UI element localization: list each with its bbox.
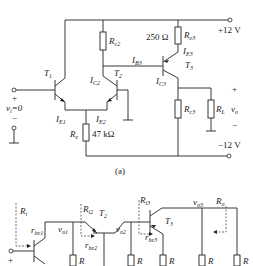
ib3-label: IB3: [131, 55, 142, 66]
ic3-label: IC3: [155, 76, 166, 87]
figure-a: +12 V Rc2 T1 T2 IC2 IE1 I: [6, 18, 241, 176]
resistor-b-rc3: [199, 255, 205, 266]
resistor-rc3: [175, 100, 181, 118]
input-minus: −: [12, 113, 17, 123]
rb1-label: R: [78, 256, 85, 266]
rc2-label: Rc2: [108, 36, 120, 47]
re-value: 47 kΩ: [92, 129, 115, 139]
rbe1-label: rbe1: [31, 225, 43, 236]
ri-label: Ri: [19, 206, 28, 217]
circuit-diagram: +12 V Rc2 T1 T2 IC2 IE1 I: [0, 0, 253, 266]
input-plus-b: +: [8, 255, 13, 265]
ic2-label: IC2: [89, 75, 100, 86]
vo3-label: vo3: [193, 197, 203, 208]
re3-label: Re3: [183, 30, 195, 41]
input-terminal-b: [9, 249, 13, 253]
figure-a-caption: (a): [115, 166, 125, 176]
ie3-label: IE3: [182, 46, 193, 57]
t3b-label: T3: [165, 216, 173, 227]
output-label: vo: [231, 104, 238, 115]
input-terminal: [12, 88, 16, 92]
re-label: Re: [69, 129, 79, 140]
resistor-re3: [175, 27, 181, 44]
rb4-label: R: [207, 256, 214, 266]
resistor-b-rc2: [128, 255, 134, 266]
ri3-label: Ri3: [139, 195, 150, 206]
rb3-label: R: [168, 256, 175, 266]
vo1-label: vo1: [58, 224, 68, 235]
rl-label: RL: [215, 104, 226, 115]
figure-b: Ri + rbe1 vo1 R Ri2 T2 rbe2 vo2 R: [8, 195, 249, 266]
ie1-label: IE1: [55, 114, 66, 125]
supply-negative-label: −12 V: [218, 140, 241, 150]
re3-value: 250 Ω: [146, 32, 169, 42]
rb2-label: R: [136, 256, 143, 266]
input-plus: +: [12, 93, 17, 103]
rb5-label: R: [242, 256, 249, 266]
t2-label: T2: [114, 68, 122, 79]
ro-label: Ro: [215, 196, 225, 207]
resistor-b-re3: [160, 255, 166, 266]
resistor-rl: [208, 100, 214, 118]
ie2-label: IE2: [95, 114, 106, 125]
t2b-label: T2: [99, 208, 107, 219]
output-plus: +: [232, 84, 237, 94]
resistor-re: [83, 124, 89, 141]
resistor-rc2: [100, 32, 106, 50]
t3-label: T3: [185, 60, 193, 71]
resistor-b-1: [70, 255, 76, 266]
input-ground-terminal: [12, 126, 16, 130]
rbe2-label: rbe2: [85, 240, 97, 251]
rc3-label: Rc3: [183, 104, 195, 115]
output-minus: −: [232, 120, 237, 130]
vcc-terminal: [228, 18, 232, 22]
ri2-label: Ri2: [82, 204, 93, 215]
supply-positive-label: +12 V: [218, 25, 241, 35]
resistor-b-rl: [234, 255, 240, 266]
vee-terminal: [227, 154, 231, 158]
t1-label: T1: [44, 68, 52, 79]
